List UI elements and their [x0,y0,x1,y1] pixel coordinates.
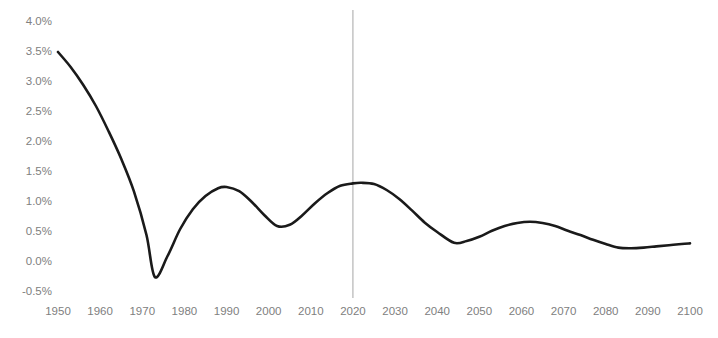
x-axis-tick-label: 2030 [382,306,408,318]
chart-container: 4.0%3.5%3.0%2.5%2.0%1.5%1.0%0.5%0.0%-0.5… [0,0,718,338]
x-axis-tick-label: 1960 [87,306,113,318]
y-axis-tick-label: -0.5% [0,286,52,298]
x-axis-tick-label: 2000 [256,306,282,318]
y-axis-tick-label: 2.5% [0,106,52,118]
y-axis-tick-label: 1.0% [0,196,52,208]
x-axis-tick-label: 2060 [509,306,535,318]
x-axis-tick-label: 2090 [635,306,661,318]
series-layer [58,52,690,277]
data-line-growth-rate [58,52,690,277]
x-axis-tick-label: 2080 [593,306,619,318]
line-chart-plot [0,0,718,338]
x-axis-tick-label: 2020 [340,306,366,318]
x-axis-tick-label: 2040 [424,306,450,318]
x-axis-tick-label: 1980 [172,306,198,318]
y-axis-tick-label: 3.0% [0,76,52,88]
x-axis-tick-label: 2100 [677,306,703,318]
x-axis-tick-label: 2010 [298,306,324,318]
x-axis-tick-label: 1990 [214,306,240,318]
y-axis-tick-label: 4.0% [0,16,52,28]
y-axis-tick-label: 2.0% [0,136,52,148]
x-axis-tick-label: 1950 [45,306,71,318]
y-axis-tick-label: 0.0% [0,256,52,268]
y-axis-tick-label: 0.5% [0,226,52,238]
y-axis-tick-label: 1.5% [0,166,52,178]
x-axis-tick-label: 2070 [551,306,577,318]
y-axis-tick-label: 3.5% [0,46,52,58]
x-axis-tick-label: 1970 [129,306,155,318]
x-axis-tick-label: 2050 [467,306,493,318]
